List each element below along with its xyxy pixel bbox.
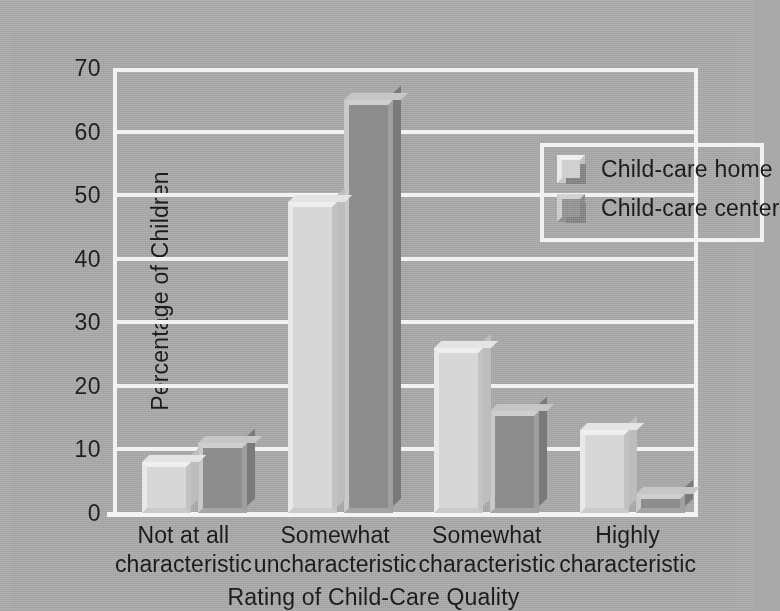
bar-side-face — [337, 187, 345, 506]
y-axis-tick-label: 20 — [74, 372, 101, 399]
y-axis-tick-label: 40 — [74, 245, 101, 272]
y-axis-tick-label: 60 — [74, 118, 101, 145]
bar-front-face — [434, 348, 483, 513]
plot-area: Percentage of Children 010203040506070 C… — [113, 68, 698, 513]
x-axis-category-label-3: Highlycharacteristic — [557, 521, 698, 579]
legend-label-home: Child-care home — [601, 156, 773, 183]
x-axis-title: Rating of Child-Care Quality — [13, 584, 734, 611]
bar-front-face — [580, 430, 629, 513]
legend-swatch-home-icon — [557, 155, 585, 183]
bar-home-3 — [580, 430, 629, 513]
bar-front-face — [288, 202, 337, 514]
bar-front-face — [198, 443, 247, 513]
chart-legend: Child-care home Child-care center — [540, 143, 764, 242]
bar-top-face — [490, 404, 554, 411]
bar-front-face — [636, 494, 685, 513]
bar-group-container — [113, 68, 698, 513]
legend-label-center: Child-care center — [601, 195, 780, 222]
y-axis-tick-label: 0 — [88, 500, 101, 527]
chart-figure: Percentage of Children 010203040506070 C… — [13, 33, 734, 609]
bar-top-face — [580, 423, 644, 430]
x-axis-category-label-1: Somewhatuncharacteristic — [254, 521, 417, 579]
bar-center-1 — [344, 100, 393, 513]
bar-top-face — [344, 93, 408, 100]
legend-swatch-center-icon — [557, 194, 585, 222]
bar-home-2 — [434, 348, 483, 513]
bar-top-face — [636, 487, 700, 494]
y-axis-tick-label: 30 — [74, 309, 101, 336]
bar-front-face — [344, 100, 393, 513]
bar-center-0 — [198, 443, 247, 513]
x-axis-category-labels: Not at allcharacteristicSomewhatuncharac… — [113, 521, 698, 579]
bar-top-face — [434, 341, 498, 348]
bar-center-3 — [636, 494, 685, 513]
x-axis-category-label-2: Somewhatcharacteristic — [416, 521, 557, 579]
y-axis-tick-label: 10 — [74, 436, 101, 463]
bar-home-0 — [142, 462, 191, 513]
legend-item-child-care-home: Child-care home — [557, 155, 773, 183]
y-axis-tick-label: 70 — [74, 55, 101, 82]
bar-center-2 — [490, 411, 539, 513]
bar-side-face — [393, 86, 401, 506]
bar-top-face — [142, 455, 206, 462]
bar-top-face — [288, 195, 352, 202]
legend-item-child-care-center: Child-care center — [557, 194, 780, 222]
bar-side-face — [539, 397, 547, 506]
bar-top-face — [198, 436, 262, 443]
x-axis-category-label-0: Not at allcharacteristic — [113, 521, 254, 579]
bar-front-face — [142, 462, 191, 513]
bar-side-face — [483, 334, 491, 506]
y-axis-tick-label: 50 — [74, 182, 101, 209]
bar-front-face — [490, 411, 539, 513]
bar-home-1 — [288, 202, 337, 514]
